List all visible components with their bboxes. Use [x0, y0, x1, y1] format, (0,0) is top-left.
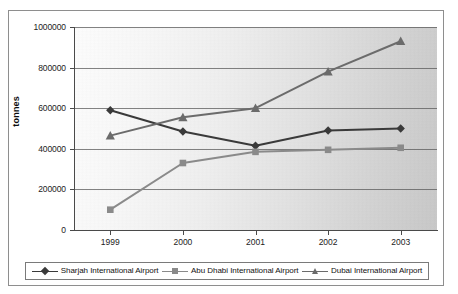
- y-tick-label-1000000: 1000000: [34, 23, 66, 32]
- y-tick-label-200000: 200000: [38, 185, 66, 194]
- y-tick-label-400000: 400000: [38, 145, 66, 154]
- legend-swatch-square-icon: [162, 266, 188, 276]
- x-tick-label-2003: 2003: [391, 238, 410, 247]
- y-axis-line: [74, 27, 75, 231]
- x-tick-mark-1999: [110, 231, 111, 235]
- y-tick-label-0: 0: [61, 226, 66, 235]
- gridline-200000: [75, 189, 437, 190]
- y-tick-label-600000: 600000: [38, 104, 66, 113]
- y-tick-mark-200000: [70, 189, 74, 190]
- x-tick-mark-2002: [328, 231, 329, 235]
- y-tick-label-800000: 800000: [38, 64, 66, 73]
- y-tick-mark-400000: [70, 149, 74, 150]
- legend-swatch-diamond-icon: [32, 266, 58, 276]
- legend-entry-0[interactable]: Sharjah International Airport: [32, 266, 159, 276]
- legend-entry-1[interactable]: Abu Dhabi International Airport: [162, 266, 298, 276]
- gridline-600000: [75, 108, 437, 109]
- x-tick-label-2001: 2001: [246, 238, 265, 247]
- legend-label-1: Abu Dhabi International Airport: [191, 267, 298, 275]
- y-axis-title: tonnes: [12, 96, 28, 127]
- x-tick-mark-2003: [401, 231, 402, 235]
- plot-area: [74, 27, 437, 230]
- legend-label-0: Sharjah International Airport: [61, 267, 159, 275]
- y-tick-mark-1000000: [70, 27, 74, 28]
- x-tick-mark-2000: [183, 231, 184, 235]
- x-tick-label-1999: 1999: [101, 238, 120, 247]
- plot-texture-overlay: [74, 27, 437, 230]
- legend-label-2: Dubai International Airport: [331, 267, 422, 275]
- line-chart: 02000004000006000008000001000000 1999200…: [0, 0, 458, 294]
- y-tick-mark-0: [70, 230, 74, 231]
- y-tick-mark-800000: [70, 68, 74, 69]
- gridline-800000: [75, 68, 437, 69]
- legend-entry-2[interactable]: Dubai International Airport: [302, 266, 422, 276]
- x-tick-label-2002: 2002: [319, 238, 338, 247]
- x-tick-label-2000: 2000: [173, 238, 192, 247]
- x-tick-mark-2001: [256, 231, 257, 235]
- y-tick-mark-600000: [70, 108, 74, 109]
- gridline-1000000: [75, 27, 437, 28]
- gridline-400000: [75, 149, 437, 150]
- chart-legend: Sharjah International AirportAbu Dhabi I…: [25, 262, 429, 280]
- legend-swatch-triangle-icon: [302, 266, 328, 276]
